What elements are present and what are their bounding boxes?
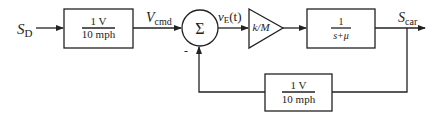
svg-text:s+μ: s+μ [333, 30, 349, 41]
vcmd-label: Vcmd [146, 10, 172, 27]
error-label: vE(t) [218, 9, 242, 25]
output-label: Scar [398, 10, 418, 27]
svg-text:10 mph: 10 mph [282, 93, 316, 105]
feedback-gain-block: 1 V 10 mph [265, 74, 332, 111]
svg-text:k/M: k/M [252, 21, 270, 33]
summing-junction: Σ - [182, 10, 218, 58]
plant-block: 1 s+μ [307, 9, 375, 48]
command-gain-block: 1 V 10 mph [64, 9, 133, 48]
svg-text:1 V: 1 V [91, 15, 107, 27]
feedback-line-left [199, 47, 265, 92]
svg-text:1: 1 [339, 16, 344, 27]
minus-sign: - [184, 44, 188, 58]
input-label: SD [17, 21, 33, 39]
block-diagram: SD 1 V 10 mph Vcmd Σ - vE(t) k/M 1 s+μ S… [0, 0, 443, 118]
svg-text:1 V: 1 V [291, 79, 307, 91]
sigma-symbol: Σ [195, 20, 204, 37]
svg-text:10 mph: 10 mph [82, 28, 116, 40]
amplifier-gain-block: k/M [249, 9, 283, 48]
